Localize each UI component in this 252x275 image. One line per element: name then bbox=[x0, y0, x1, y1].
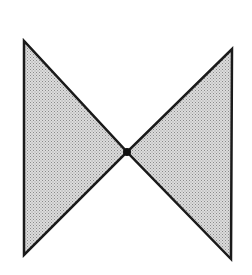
bowtie-diagram bbox=[0, 0, 252, 275]
center-vertex bbox=[123, 148, 131, 156]
